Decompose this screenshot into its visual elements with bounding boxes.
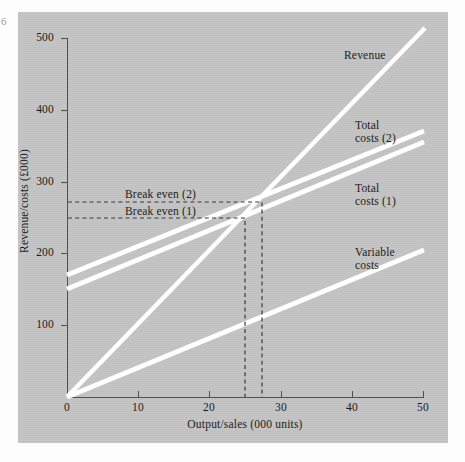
series-label-variable-costs-line1: Variable	[355, 246, 395, 260]
series-line-revenue	[67, 28, 425, 397]
figure-root: 6 500 400 300 200 100 0 10 20 30 40 50 R…	[0, 0, 465, 462]
series-label-total-costs-2-line2: costs (2)	[355, 132, 396, 146]
series-label-total-costs-1-line2: costs (1)	[355, 195, 396, 209]
series-label-total-costs-1-line1: Total	[355, 182, 379, 196]
series-label-total-costs-2-line1: Total	[355, 119, 379, 133]
plot-lines	[0, 0, 465, 462]
series-label-revenue: Revenue	[344, 49, 386, 63]
annotation-label-break-even-2: Break even (2)	[125, 188, 196, 202]
series-label-variable-costs-line2: costs	[355, 259, 379, 273]
annotation-label-break-even-1: Break even (1)	[125, 205, 196, 219]
